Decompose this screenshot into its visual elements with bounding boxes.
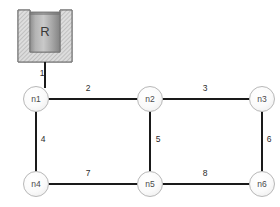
node-n3[interactable]: n3 [250, 87, 275, 112]
node-n4[interactable]: n4 [24, 172, 49, 197]
edges-group [36, 62, 262, 184]
node-n1-label: n1 [31, 94, 41, 104]
node-n6[interactable]: n6 [250, 172, 275, 197]
reservoir-group: R [18, 10, 72, 62]
edge-label-p5: 5 [156, 134, 161, 144]
pipe-network-diagram: R n1 n2 n3 [0, 0, 280, 207]
node-n6-label: n6 [257, 179, 267, 189]
edge-label-p8: 8 [203, 168, 208, 178]
edge-label-p7: 7 [86, 168, 91, 178]
node-n2[interactable]: n2 [138, 87, 163, 112]
edge-label-p3: 3 [203, 83, 208, 93]
reservoir-label: R [40, 24, 49, 39]
node-n5-label: n5 [145, 179, 155, 189]
edge-label-p2: 2 [86, 83, 91, 93]
node-n4-label: n4 [31, 179, 41, 189]
edge-label-p4: 4 [41, 134, 46, 144]
node-n1[interactable]: n1 [24, 87, 49, 112]
diagram-svg: R n1 n2 n3 [0, 0, 280, 207]
node-n3-label: n3 [257, 94, 267, 104]
node-n2-label: n2 [145, 94, 155, 104]
edge-labels-group: 1 2 3 4 5 6 7 8 [40, 68, 272, 178]
edge-label-p6: 6 [267, 134, 272, 144]
edge-label-p1: 1 [40, 68, 45, 78]
node-n5[interactable]: n5 [138, 172, 163, 197]
reservoir-surface-line [30, 12, 60, 15]
